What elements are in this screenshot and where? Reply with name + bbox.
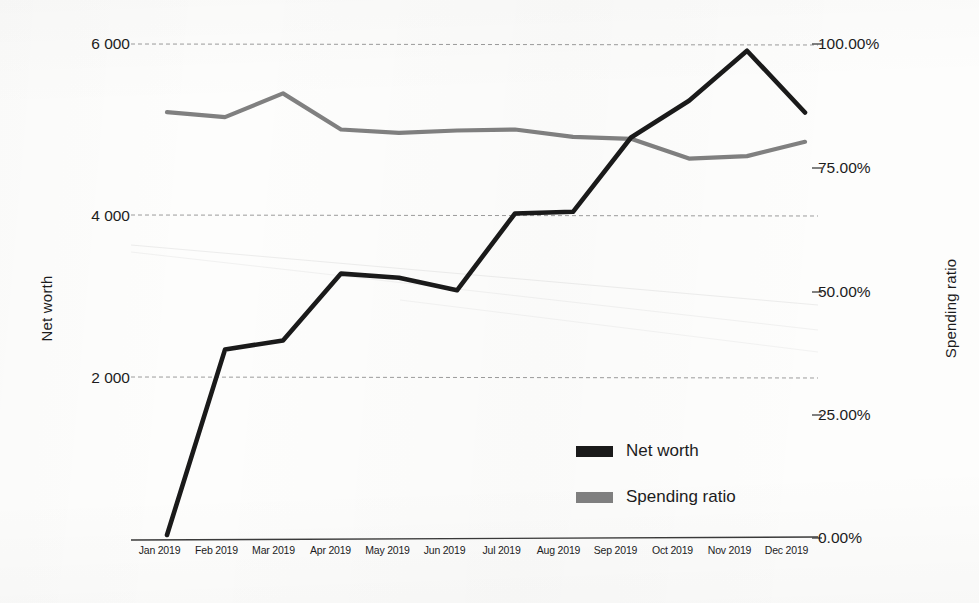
ytick-left-4000: 4 000 xyxy=(30,207,130,225)
ytick-right-0: 0.00% xyxy=(818,529,928,547)
xtick-jun-2019: Jun 2019 xyxy=(416,544,473,568)
x-axis-tick-labels: Jan 2019 Feb 2019 Mar 2019 Apr 2019 May … xyxy=(131,544,815,568)
right-axis-title: Spending ratio xyxy=(942,244,959,374)
ytick-right-25: 25.00% xyxy=(818,406,928,424)
chart-container: 6 000 4 000 2 000 Net worth 100.00% 75.0… xyxy=(0,0,979,603)
gridline-2000 xyxy=(131,377,818,378)
ytick-right-75: 75.00% xyxy=(818,159,928,177)
xtick-jan-2019: Jan 2019 xyxy=(131,544,188,568)
scan-artifacts xyxy=(131,245,818,352)
legend-swatch-net-worth xyxy=(576,446,613,457)
xtick-nov-2019: Nov 2019 xyxy=(701,544,758,568)
xtick-may-2019: May 2019 xyxy=(359,544,416,568)
xtick-oct-2019: Oct 2019 xyxy=(644,544,701,568)
gridline-6000 xyxy=(131,44,818,45)
x-axis-line xyxy=(131,537,818,540)
legend-item-spending-ratio[interactable]: Spending ratio xyxy=(576,474,806,520)
xtick-aug-2019: Aug 2019 xyxy=(530,544,587,568)
left-axis-title: Net worth xyxy=(38,249,55,369)
xtick-jul-2019: Jul 2019 xyxy=(473,544,530,568)
ytick-left-2000: 2 000 xyxy=(30,369,130,387)
xtick-feb-2019: Feb 2019 xyxy=(188,544,245,568)
ytick-right-50: 50.00% xyxy=(818,283,928,301)
xtick-sep-2019: Sep 2019 xyxy=(587,544,644,568)
legend-label-spending-ratio: Spending ratio xyxy=(626,487,736,507)
right-axis-tick-labels: 100.00% 75.00% 50.00% 25.00% 0.00% xyxy=(818,0,938,603)
series-line-spending-ratio xyxy=(167,93,805,158)
xtick-apr-2019: Apr 2019 xyxy=(302,544,359,568)
gridlines xyxy=(131,44,818,378)
legend-item-net-worth[interactable]: Net worth xyxy=(576,428,806,474)
ytick-right-100: 100.00% xyxy=(818,35,928,53)
gridline-4000 xyxy=(131,215,818,216)
ytick-left-6000: 6 000 xyxy=(30,35,130,53)
legend-swatch-spending-ratio xyxy=(576,492,613,503)
legend-label-net-worth: Net worth xyxy=(626,441,699,461)
left-axis-tick-labels: 6 000 4 000 2 000 xyxy=(20,0,130,603)
xtick-mar-2019: Mar 2019 xyxy=(245,544,302,568)
chart-legend: Net worth Spending ratio xyxy=(576,428,806,520)
xtick-dec-2019: Dec 2019 xyxy=(758,544,815,568)
